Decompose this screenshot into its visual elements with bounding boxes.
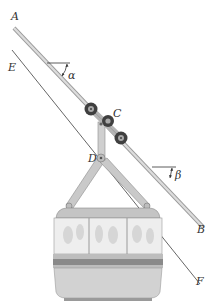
label-beta: β — [174, 169, 181, 182]
label-C: C — [113, 107, 122, 120]
label-F: F — [195, 275, 204, 288]
pin-D — [97, 154, 105, 162]
gondola-cabin — [53, 203, 163, 301]
label-alpha: α — [68, 69, 76, 82]
wheel-icon — [85, 103, 98, 116]
hanger-arms — [66, 122, 150, 208]
cable-car-diagram: A E α C D β B F — [0, 0, 216, 305]
label-B: B — [196, 223, 205, 236]
label-E: E — [7, 61, 16, 74]
label-D: D — [87, 152, 97, 165]
wheel-icon — [115, 132, 128, 145]
label-A: A — [10, 10, 19, 23]
